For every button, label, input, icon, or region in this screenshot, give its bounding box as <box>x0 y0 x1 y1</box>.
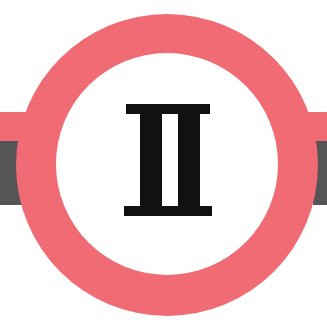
roman-numeral-icon: II <box>118 90 218 230</box>
line-symbol: II <box>0 0 327 325</box>
numeral-two-icon <box>118 90 218 230</box>
